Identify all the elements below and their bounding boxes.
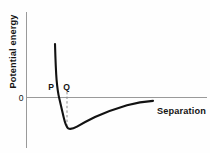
point-q-label: Q <box>63 82 70 92</box>
y-axis-zero-tick-label: 0 <box>19 93 24 103</box>
y-axis-title: Potential energy <box>8 14 18 89</box>
potential-energy-figure: Potential energy Separation 0 P Q <box>0 0 210 153</box>
point-p-label: P <box>48 82 54 92</box>
x-axis-title: Separation <box>157 106 206 116</box>
